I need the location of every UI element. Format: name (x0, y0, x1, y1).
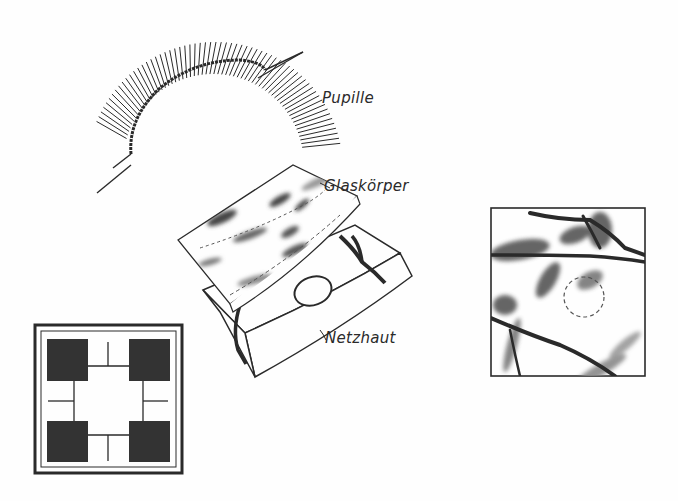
retina-closeup (489, 208, 645, 390)
label-netzhaut: Netzhaut (325, 329, 396, 347)
label-pupille: Pupille (322, 89, 374, 107)
label-glaskoerper: Glaskörper (324, 177, 409, 195)
diagram-canvas: Pupille Glaskörper Netzhaut (0, 0, 678, 501)
pixel-grid (35, 325, 182, 473)
diagram-drawing (0, 0, 678, 501)
